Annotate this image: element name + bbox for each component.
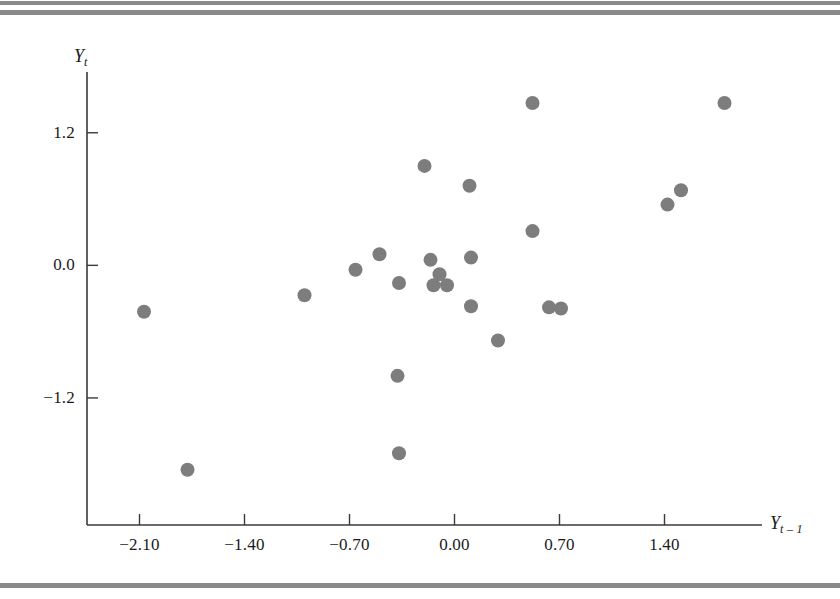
- scatter-point: [298, 288, 312, 302]
- scatter-point: [424, 253, 438, 267]
- axes: [87, 72, 762, 525]
- scatter-point: [391, 369, 405, 383]
- x-tick-label: −0.70: [329, 535, 369, 555]
- x-tick-label: −2.10: [119, 535, 159, 555]
- scatter-point: [373, 247, 387, 261]
- y-axis-title-base: Y: [74, 46, 84, 66]
- x-tick-label: 1.40: [649, 535, 680, 555]
- scatter-point: [661, 198, 675, 212]
- y-axis-title: Yt: [74, 46, 88, 70]
- scatter-point: [491, 333, 505, 347]
- scatter-point: [464, 299, 478, 313]
- scatter-point: [674, 183, 688, 197]
- x-tick-label: 0.00: [439, 535, 470, 555]
- x-tick-label: 0.70: [544, 535, 575, 555]
- y-axis-title-subscript: t: [84, 55, 88, 69]
- scatter-point: [526, 224, 540, 238]
- scatter-point: [392, 446, 406, 460]
- scatter-plot-svg: [0, 0, 840, 599]
- x-tick-label: −1.40: [224, 535, 264, 555]
- scatter-point: [427, 278, 441, 292]
- x-axis-title: Yt – 1: [770, 513, 803, 537]
- y-tick-label: 1.2: [0, 123, 75, 143]
- scatter-point: [464, 251, 478, 265]
- scatter-point: [392, 276, 406, 290]
- scatter-point: [542, 300, 556, 314]
- scatter-point: [526, 96, 540, 110]
- x-axis-title-subscript: t – 1: [780, 522, 803, 536]
- y-tick-label: 0.0: [0, 255, 75, 275]
- scatter-point: [554, 301, 568, 315]
- x-axis-ticks: [140, 514, 665, 525]
- x-axis-title-base: Y: [770, 513, 780, 533]
- y-axis-ticks: [87, 133, 98, 398]
- scatter-point: [349, 263, 363, 277]
- scatter-point: [181, 463, 195, 477]
- scatter-point: [440, 278, 454, 292]
- data-points: [137, 96, 732, 477]
- y-tick-label: −1.2: [0, 388, 75, 408]
- scatter-point: [137, 305, 151, 319]
- scatter-point: [718, 96, 732, 110]
- scatter-plot: [0, 0, 840, 599]
- scatter-point: [463, 179, 477, 193]
- figure-page: −2.10−1.40−0.700.000.701.40 1.20.0−1.2 Y…: [0, 0, 840, 599]
- scatter-point: [418, 159, 432, 173]
